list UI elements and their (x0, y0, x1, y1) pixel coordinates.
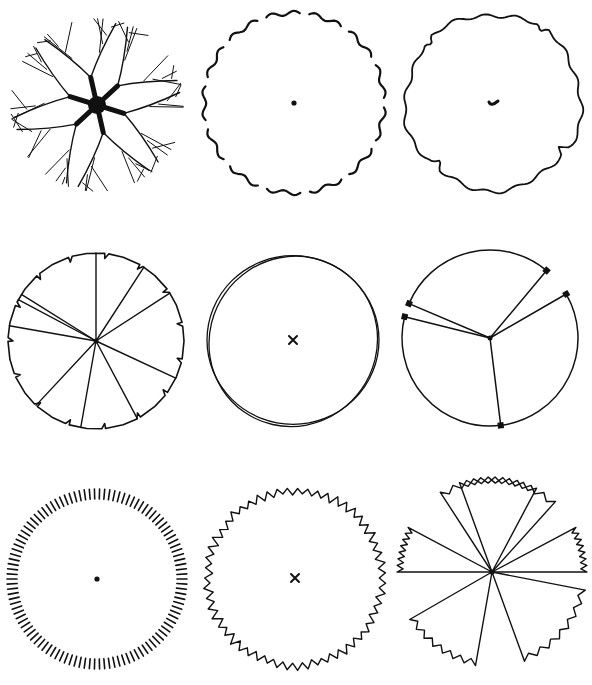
symbols-canvas (0, 0, 592, 685)
tree-broken-wavy-outline (202, 11, 385, 195)
tree-hatched-ring (7, 489, 187, 669)
tree-three-arc-spokes (401, 250, 578, 429)
center-dot-icon (94, 576, 99, 581)
center-dot-icon (291, 100, 296, 105)
center-x-icon (291, 574, 299, 582)
center-x-icon (289, 336, 297, 344)
center-tick-icon (489, 101, 498, 104)
tree-notched-segments (8, 253, 184, 429)
tree-symbols-diagram (0, 0, 592, 685)
tree-branching-canopy (11, 19, 183, 191)
tree-irregular-wavy-outline (404, 14, 583, 193)
tree-zigzag-wedges (397, 477, 587, 666)
tree-double-outline (176, 223, 411, 460)
tree-zigzag-outline (204, 488, 386, 670)
